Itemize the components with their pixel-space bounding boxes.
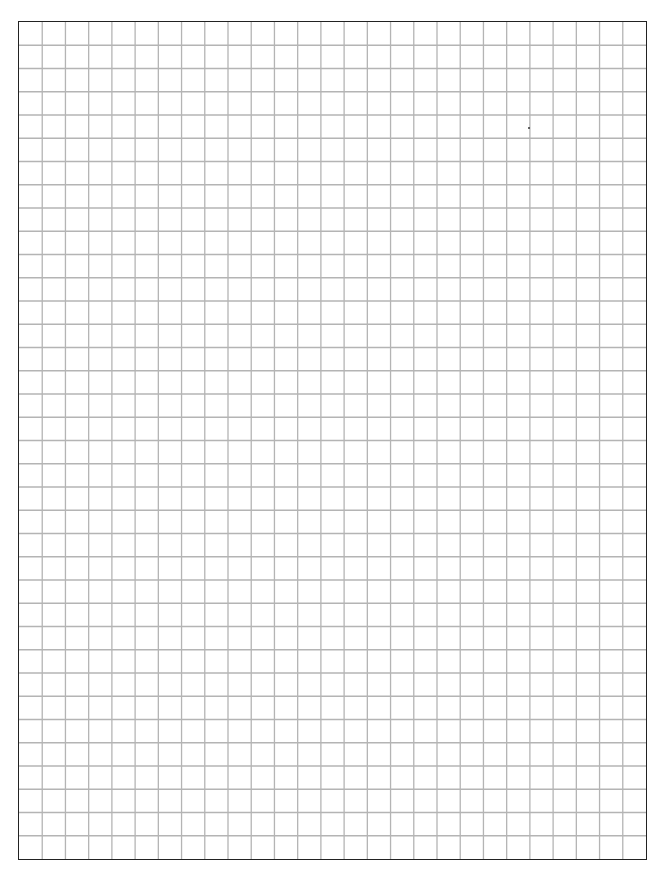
grid-lines xyxy=(19,22,646,859)
ink-speck xyxy=(528,127,530,129)
graph-paper-grid xyxy=(18,21,647,860)
cropped-header-text xyxy=(380,0,670,6)
